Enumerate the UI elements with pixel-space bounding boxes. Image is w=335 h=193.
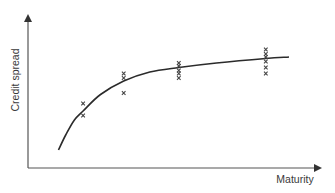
data-point-x-marker <box>122 76 126 80</box>
data-point-x-marker <box>177 72 181 76</box>
data-point-x-marker <box>264 66 268 70</box>
x-axis-label: Maturity <box>276 173 314 185</box>
y-axis-label: Credit spread <box>9 48 21 111</box>
data-point-x-marker <box>264 60 268 64</box>
data-point-x-marker <box>81 102 85 106</box>
data-point-x-marker <box>122 91 126 95</box>
data-point-x-marker <box>177 76 181 80</box>
plot-area <box>59 48 290 150</box>
credit-spread-chart: Credit spread Maturity <box>0 0 335 193</box>
data-point-x-marker <box>81 114 85 118</box>
fitted-curve <box>59 57 290 150</box>
data-point-x-marker <box>122 72 126 76</box>
data-point-x-marker <box>264 72 268 76</box>
data-point-x-marker <box>264 48 268 52</box>
